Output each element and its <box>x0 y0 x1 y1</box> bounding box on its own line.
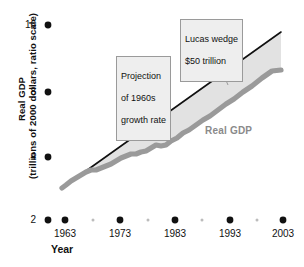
xtick-label-2003: 2003 <box>263 228 303 239</box>
ytick-dot-16 <box>45 22 52 29</box>
xtick-dot-minor-1988 <box>201 219 204 222</box>
ytick-label-8: 8 <box>16 86 36 97</box>
x-axis-title: Year <box>51 243 73 255</box>
annotation-projection-line1: Projection <box>121 71 166 82</box>
xtick-label-1963: 1963 <box>45 228 85 239</box>
xtick-dot-1973 <box>117 217 124 224</box>
annotation-lucas-wedge: Lucas wedge $50 trillion <box>180 19 243 82</box>
ytick-dot-2 <box>45 217 52 224</box>
chart-container: Real GDP (trillions of 2000 dollars, rat… <box>0 0 304 267</box>
xtick-label-1973: 1973 <box>100 228 140 239</box>
ytick-label-4: 4 <box>16 151 36 162</box>
ytick-dot-4 <box>45 154 52 161</box>
xtick-dot-1963 <box>62 217 69 224</box>
annotation-projection-line2: of 1960s <box>121 93 166 104</box>
xtick-dot-2003 <box>280 217 287 224</box>
annotation-lucas-wedge-line2: $50 trillion <box>185 56 238 67</box>
xtick-label-1993: 1993 <box>210 228 250 239</box>
annotation-projection-line3: growth rate <box>121 115 166 126</box>
annotation-lucas-wedge-line1: Lucas wedge <box>185 34 238 45</box>
projection-line <box>62 32 281 188</box>
annotation-projection: Projection of 1960s growth rate <box>116 56 171 141</box>
xtick-dot-minor-1998 <box>256 219 259 222</box>
xtick-dot-1983 <box>172 217 179 224</box>
series-label-real-gdp: Real GDP <box>205 125 252 136</box>
xtick-dot-minor-1968 <box>92 219 95 222</box>
ytick-label-2: 2 <box>16 214 36 225</box>
xtick-label-1983: 1983 <box>155 228 195 239</box>
ytick-label-16: 16 <box>16 19 36 30</box>
xtick-dot-minor-1978 <box>147 219 150 222</box>
xtick-dot-1993 <box>227 217 234 224</box>
ytick-dot-8 <box>45 89 52 96</box>
